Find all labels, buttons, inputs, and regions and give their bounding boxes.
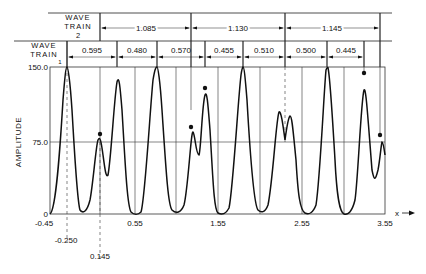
wt1-interval-6: 0.500	[296, 46, 317, 55]
x-tick-355: 3.55	[377, 219, 393, 228]
x-axis: -0.45 0.55 1.55 2.55 3.55 -0.250 0.145 x	[35, 209, 415, 261]
y-tick-150: 150.0	[28, 63, 49, 72]
y-tick-75: 75.0	[32, 138, 48, 147]
wave-train-2-label-line2: TRAIN	[64, 22, 92, 31]
wt1-interval-4: 0.455	[214, 46, 235, 55]
x-axis-label: x	[395, 209, 399, 218]
annotation-neg0250: -0.250	[55, 236, 78, 245]
x-tick-055: 0.55	[127, 219, 143, 228]
wave-train-1-label-line2: TRAIN	[30, 50, 58, 59]
x-tick-255: 2.55	[294, 219, 310, 228]
wt2-interval-2: 1.130	[228, 24, 249, 33]
wt1-interval-7: 0.445	[336, 46, 357, 55]
wt2-interval-1: 1.085	[136, 24, 157, 33]
wave-train-1-label: WAVE	[31, 41, 56, 50]
x-arrowhead-icon	[409, 211, 415, 216]
y-axis: 150.0 75.0 0 AMPLITUDE	[14, 63, 49, 219]
wave-train-2-label: WAVE	[65, 13, 90, 22]
wt1-interval-3: 0.570	[171, 46, 192, 55]
wt2-interval-3: 1.145	[322, 24, 343, 33]
wave-train-1-number: 1	[58, 59, 62, 65]
annotation-0145: 0.145	[90, 252, 111, 261]
wave-train-2-number: 2	[76, 31, 80, 40]
wt1-interval-2: 0.480	[127, 46, 148, 55]
wt1-interval-1: 0.595	[82, 46, 103, 55]
x-tick-155: 1.55	[210, 219, 226, 228]
y-tick-0: 0	[44, 210, 49, 219]
amplitude-chart: WAVE TRAIN 2 WAVE TRAIN 1 1.085 1.130 1.…	[0, 0, 426, 274]
y-axis-label: AMPLITUDE	[14, 117, 23, 167]
wt1-interval-5: 0.510	[254, 46, 275, 55]
x-tick-neg045: -0.45	[35, 219, 54, 228]
